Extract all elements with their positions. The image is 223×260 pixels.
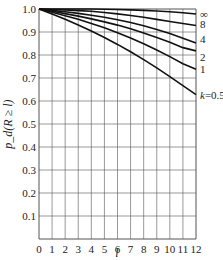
x-tick-label: 8 xyxy=(141,243,147,255)
curve-label: 4 xyxy=(200,33,206,45)
x-tick-label: 5 xyxy=(102,243,108,255)
y-tick-label: 0.3 xyxy=(22,164,36,176)
y-tick-label: 0.7 xyxy=(22,72,36,84)
y-axis-ticks: 0.10.20.30.40.50.60.70.80.91.0 xyxy=(22,3,36,222)
x-tick-label: 3 xyxy=(76,243,82,255)
curve-label: 2 xyxy=(200,51,206,63)
x-tick-label: 0 xyxy=(36,243,42,255)
x-axis-ticks: 0123456789101112 xyxy=(36,243,201,255)
y-tick-label: 0.5 xyxy=(22,118,36,130)
x-tick-label: 7 xyxy=(128,243,134,255)
x-tick-label: 10 xyxy=(164,243,176,255)
x-tick-label: 12 xyxy=(191,243,202,255)
y-tick-label: 0.4 xyxy=(22,141,36,153)
x-tick-label: 1 xyxy=(49,243,55,255)
x-tick-label: 4 xyxy=(89,243,95,255)
curve-label: 8 xyxy=(200,18,206,30)
y-tick-label: 0.1 xyxy=(22,210,36,222)
y-tick-label: 0.9 xyxy=(22,26,36,38)
curve-label: 1 xyxy=(200,63,206,75)
y-axis-label: p_d(R ≥ l) xyxy=(1,99,15,149)
curve-labels: ∞8421k=0.5 xyxy=(200,8,223,101)
y-tick-label: 1.0 xyxy=(22,3,36,15)
x-tick-label: 2 xyxy=(62,243,68,255)
y-tick-label: 0.2 xyxy=(22,187,36,199)
reliability-chart: 0123456789101112 0.10.20.30.40.50.60.70.… xyxy=(0,0,223,260)
curve-label: k=0.5 xyxy=(200,89,223,101)
y-tick-label: 0.8 xyxy=(22,49,36,61)
x-tick-label: 11 xyxy=(178,243,189,255)
x-tick-label: 9 xyxy=(154,243,160,255)
y-tick-label: 0.6 xyxy=(22,95,36,107)
